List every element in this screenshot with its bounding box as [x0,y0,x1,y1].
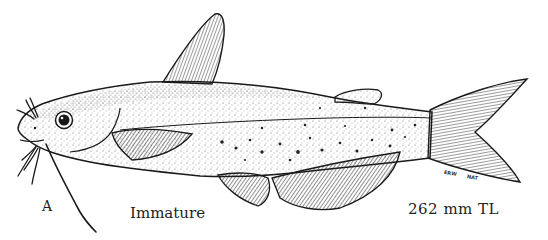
caudal-fin [428,79,527,182]
pelvic-fin [218,173,270,206]
life-stage-caption: Immature [130,204,205,222]
panel-letter: A [42,198,52,214]
dorsal-fin [163,14,224,84]
length-caption: 262 mm TL [408,200,499,218]
